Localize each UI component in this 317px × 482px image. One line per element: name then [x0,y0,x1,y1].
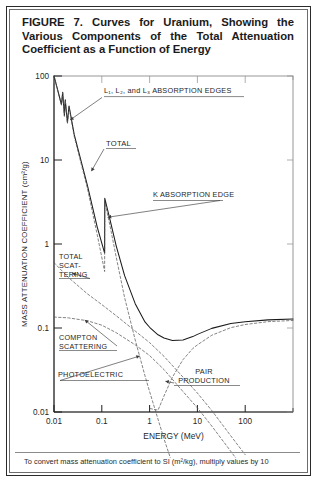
annotation-text: PRODUCTION [178,376,230,385]
x-tick-label: 0.1 [96,417,108,426]
annotation-text: SCATTERING [59,342,107,351]
figure-page: FIGURE 7. Curves for Uranium, Showing th… [0,0,317,482]
annotation-k-edge: K ABSORPTION EDGE [153,190,234,199]
figure-footnote: To convert mass attenuation coefficient … [24,457,299,467]
annotation-leader [91,149,104,171]
series-pair-production [150,320,293,410]
annotation-total: TOTAL [106,139,131,148]
x-tick-label: 10 [193,417,203,426]
annotation-leader [108,201,220,218]
annotation-compton-scattering: COMPTONSCATTERING [59,333,107,351]
figure-caption: FIGURE 7. Curves for Uranium, Showing th… [22,16,294,57]
y-tick-label: 0.1 [38,324,50,333]
plot-frame [54,76,293,412]
attenuation-chart: 0.010.11101000.010.1110100ENERGY (MeV)MA… [12,62,305,458]
annotation-leader [70,98,102,120]
annotation-total-scattering: TOTALSCAT-TERING [59,252,88,279]
annotation-text: PAIR [195,367,213,376]
series-total [54,76,293,340]
chart-area: 0.010.11101000.010.1110100ENERGY (MeV)MA… [12,62,305,458]
footnote-divider [15,452,300,453]
y-tick-label: 0.01 [33,408,49,417]
y-tick-label: 1 [44,240,49,249]
annotation-l-edges: L₁, L₂, and L₃ ABSORPTION EDGES [104,86,232,95]
annotation-pair-production: PAIRPRODUCTION [178,367,230,385]
annotation-text: COMPTON [59,333,97,342]
y-tick-label: 100 [35,72,49,81]
annotation-text: L₁, L₂, and L₃ ABSORPTION EDGES [104,86,232,95]
x-tick-label: 100 [238,417,252,426]
y-tick-label: 10 [40,156,50,165]
annotation-text: K ABSORPTION EDGE [153,190,234,199]
x-tick-label: 1 [147,417,152,426]
x-axis-label: ENERGY (MeV) [143,431,204,441]
annotation-text: TOTAL [59,252,83,261]
x-tick-label: 0.01 [46,417,62,426]
annotation-text: SCAT- [59,261,81,270]
annotation-text: TOTAL [106,139,131,148]
y-axis-label: MASS ATTENUATION COEFFICIENT (cm²/g) [20,161,29,327]
annotation-arrowhead [85,320,89,324]
annotation-arrowhead [136,355,140,359]
annotation-arrowhead [165,380,169,384]
